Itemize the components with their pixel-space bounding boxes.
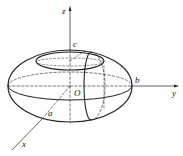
a-label: a (48, 109, 53, 118)
x-axis (12, 119, 42, 150)
b-label: b (135, 76, 140, 85)
c-label: c (73, 40, 77, 49)
z-label: z (62, 7, 66, 16)
origin-label: O (74, 89, 81, 98)
z-arrow-icon (69, 6, 72, 11)
ellipsoid-figure (0, 0, 183, 156)
x-label: x (22, 140, 26, 149)
ellipsoid-diagram: z c b y O a x (0, 0, 183, 156)
y-label: y (172, 89, 176, 98)
